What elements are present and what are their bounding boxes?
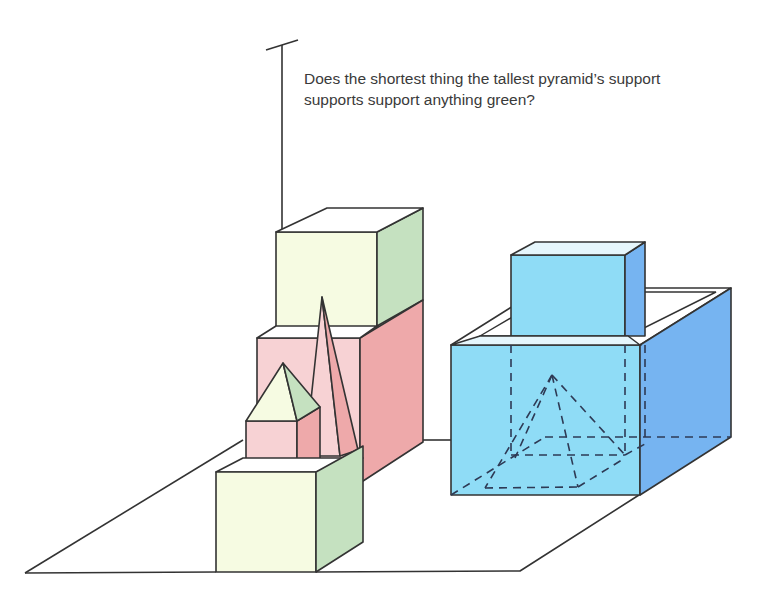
question-line-1: Does the shortest thing the tallest pyra… bbox=[304, 68, 764, 89]
question-line-2: supports support anything green? bbox=[304, 89, 764, 110]
green-cube bbox=[216, 446, 363, 572]
blue-cube bbox=[511, 242, 645, 336]
question-text: Does the shortest thing the tallest pyra… bbox=[304, 68, 764, 110]
